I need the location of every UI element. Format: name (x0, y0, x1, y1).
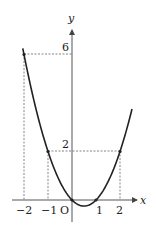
y-axis-label: y (67, 12, 75, 25)
parabola-curve (23, 48, 132, 206)
x-tick-1: 1 (96, 204, 103, 217)
y-tick-6: 6 (62, 41, 69, 54)
curve-point (22, 53, 25, 56)
x-axis-label: x (140, 194, 147, 207)
parabola-figure: y x O 6 2 −2 −1 1 2 (0, 0, 156, 235)
curve-point (94, 198, 97, 201)
curve-point (118, 150, 121, 153)
curve-point (70, 198, 73, 201)
y-tick-2: 2 (62, 138, 69, 151)
origin-label: O (60, 204, 69, 217)
x-tick-neg1: −1 (41, 204, 57, 217)
coordinate-plane: y x O 6 2 −2 −1 1 2 (0, 0, 156, 235)
x-tick-2: 2 (116, 204, 123, 217)
curve-point (46, 150, 49, 153)
x-tick-neg2: −2 (16, 204, 32, 217)
